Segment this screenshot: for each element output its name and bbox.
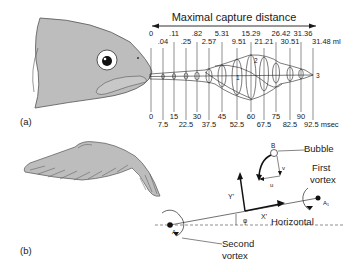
a2-label: A₂: [172, 229, 179, 235]
vol-label: 5.31: [215, 29, 230, 38]
svg-text:0: 0: [149, 29, 153, 38]
time-label: 22.5: [179, 120, 194, 129]
time-label: 45: [218, 112, 226, 121]
bird-wing-icon: [24, 142, 160, 197]
x-axis-label: X': [261, 213, 267, 220]
time-label: 37.5: [202, 120, 217, 129]
vol-label: .82: [192, 29, 202, 38]
time-label: 0: [149, 112, 153, 121]
vortex-number: 3: [316, 72, 320, 79]
v-label: v: [282, 165, 285, 171]
figure: Maximal capture distance 0 .11 .82 5.31 …: [0, 0, 358, 272]
second-vortex-label: Second: [222, 238, 254, 249]
y-axis-label: Y': [228, 193, 234, 200]
vol-label: 31.48 ml: [312, 37, 341, 46]
u-label: u: [270, 182, 273, 188]
time-label: 92.5 msec: [304, 120, 339, 129]
vol-label: 30.51: [281, 37, 300, 46]
panel-b-label: (b): [20, 245, 32, 256]
vol-label: 2.57: [202, 37, 217, 46]
panel-a-title: Maximal capture distance: [172, 11, 297, 23]
vol-label: 21.21: [255, 37, 274, 46]
time-label: 15: [170, 112, 178, 121]
time-label: 7.5: [158, 120, 168, 129]
vol-label: .04: [158, 37, 168, 46]
vol-label: .25: [181, 37, 191, 46]
time-label: 75: [272, 112, 280, 121]
time-label: 67.5: [257, 120, 272, 129]
second-vortex-point: [167, 222, 173, 228]
first-vortex-label: First: [312, 162, 331, 173]
phi-label: φ: [243, 217, 247, 225]
first-vortex-label: vortex: [310, 174, 336, 185]
fish-head-icon: [33, 18, 152, 108]
bubble-b-label: B: [271, 142, 275, 149]
vol-label: 9.51: [232, 37, 247, 46]
vol-label: .11: [169, 29, 179, 38]
vortex-number: 1: [236, 74, 240, 81]
bubble-label: Bubble: [304, 143, 334, 154]
first-vortex-point: [316, 196, 321, 201]
bubble-point: [271, 150, 278, 157]
time-label: 60: [247, 112, 255, 121]
vortex-number: 2: [254, 57, 258, 64]
a1-label: A₁: [323, 200, 329, 206]
panel-a-label: (a): [20, 116, 32, 127]
time-label: 52.5: [230, 120, 245, 129]
time-label: 30: [193, 112, 201, 121]
horizontal-label: Horizontal: [271, 216, 314, 227]
second-vortex-label: vortex: [222, 250, 248, 261]
flow-vortex-shape: [150, 55, 313, 100]
time-label: 82.5: [283, 120, 298, 129]
